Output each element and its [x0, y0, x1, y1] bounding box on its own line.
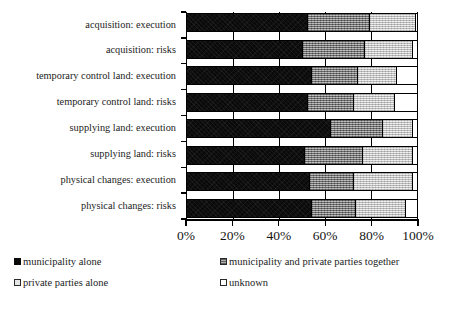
legend-label: municipality alone	[23, 256, 101, 267]
x-axis-tick	[185, 219, 186, 226]
bar-segment	[364, 41, 412, 58]
bar-segment	[382, 120, 412, 137]
category-label: temporary control land: execution	[0, 64, 182, 90]
legend-item-municipality-alone: municipality alone	[14, 256, 101, 267]
bar-segment	[187, 200, 311, 217]
chart-legend: municipality alone municipality and priv…	[14, 256, 446, 300]
bar-segment	[412, 120, 417, 137]
category-label: physical changes: risks	[0, 193, 182, 219]
bar-row	[187, 13, 417, 32]
bar-segment	[330, 120, 383, 137]
legend-item-unknown: unknown	[220, 277, 268, 288]
bar-rows	[187, 12, 417, 219]
bar-segment	[353, 94, 394, 111]
bar-row	[187, 146, 417, 165]
x-axis-tick	[325, 219, 326, 226]
bar-segment	[187, 67, 311, 84]
x-axis-tick-labels: 0%20%40%60%80%100%	[150, 228, 450, 248]
x-axis-tick-label: 80%	[359, 228, 384, 244]
bar-segment	[187, 41, 302, 58]
bar-row	[187, 93, 417, 112]
bar-segment	[187, 147, 304, 164]
legend-swatch-icon	[220, 279, 227, 286]
bar-segment	[415, 14, 417, 31]
x-axis-tick	[417, 219, 418, 226]
x-axis-tick-label: 100%	[402, 228, 434, 244]
legend-label: municipality and private parties togethe…	[229, 256, 399, 267]
plot-area	[186, 12, 418, 219]
bar-segment	[394, 94, 417, 111]
bar-segment	[311, 200, 355, 217]
x-axis-tick	[371, 219, 372, 226]
category-label: supplying land: risks	[0, 141, 182, 167]
bar-segment	[412, 41, 417, 58]
bar-segment	[309, 173, 353, 190]
category-axis-labels: acquisition: execution acquisition: risk…	[0, 12, 182, 219]
legend-swatch-icon	[220, 258, 227, 265]
bar-segment	[412, 173, 417, 190]
legend-swatch-icon	[14, 279, 21, 286]
bar-segment	[187, 94, 307, 111]
stacked-bar-chart: acquisition: execution acquisition: risk…	[0, 0, 457, 309]
bar-segment	[369, 14, 415, 31]
bar-segment	[353, 173, 413, 190]
bar-row	[187, 40, 417, 59]
bar-segment	[405, 200, 417, 217]
category-label: acquisition: risks	[0, 38, 182, 64]
x-axis-tick-label: 60%	[313, 228, 338, 244]
x-axis-tick-label: 40%	[266, 228, 291, 244]
bar-segment	[307, 94, 353, 111]
legend-swatch-icon	[14, 258, 21, 265]
bar-segment	[187, 120, 330, 137]
x-axis-tick	[278, 219, 279, 226]
x-axis-tick-label: 0%	[177, 228, 195, 244]
legend-item-municipality-and-private-parties-together: municipality and private parties togethe…	[220, 256, 399, 267]
bar-segment	[357, 67, 396, 84]
bar-segment	[355, 200, 406, 217]
bar-row	[187, 119, 417, 138]
bar-segment	[362, 147, 413, 164]
bar-segment	[307, 14, 369, 31]
category-label: supplying land: execution	[0, 116, 182, 142]
bar-segment	[302, 41, 364, 58]
x-axis-tick-label: 20%	[220, 228, 245, 244]
x-axis-ticks	[186, 219, 418, 226]
legend-label: private parties alone	[23, 277, 108, 288]
category-label: temporary control land: risks	[0, 90, 182, 116]
bar-row	[187, 66, 417, 85]
category-label: acquisition: execution	[0, 12, 182, 38]
bar-segment	[311, 67, 357, 84]
bar-row	[187, 172, 417, 191]
x-axis-tick	[232, 219, 233, 226]
bar-segment	[304, 147, 362, 164]
legend-label: unknown	[229, 277, 268, 288]
bar-segment	[412, 147, 417, 164]
legend-item-private-parties-alone: private parties alone	[14, 277, 108, 288]
bar-segment	[187, 14, 307, 31]
bar-segment	[396, 67, 417, 84]
bar-row	[187, 199, 417, 218]
bar-segment	[187, 173, 309, 190]
category-label: physical changes: execution	[0, 167, 182, 193]
